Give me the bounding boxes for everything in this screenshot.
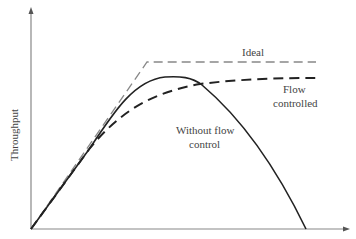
y-axis-arrow-icon bbox=[29, 7, 34, 14]
axes bbox=[29, 7, 351, 232]
label-flow-controlled-1: Flow bbox=[283, 83, 306, 95]
series-ideal bbox=[31, 62, 316, 229]
label-ideal: Ideal bbox=[242, 46, 264, 58]
y-axis-label: Throughput bbox=[8, 109, 20, 161]
throughput-chart: Ideal Flow controlled Without flow contr… bbox=[0, 0, 356, 239]
label-flow-controlled-2: controlled bbox=[273, 97, 318, 109]
label-without-flow-control-2: control bbox=[189, 138, 220, 150]
x-axis-arrow-icon bbox=[343, 227, 350, 232]
label-without-flow-control-1: Without flow bbox=[176, 124, 235, 136]
series-without-flow-control bbox=[31, 77, 306, 229]
